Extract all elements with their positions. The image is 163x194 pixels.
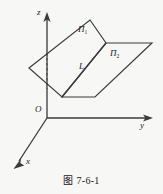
plane-pi2-label-text: Π	[110, 48, 117, 58]
figure-container: Π1 Π2 L z y x O 图 7-6-1	[0, 0, 163, 194]
plane-pi1-label: Π1	[78, 25, 87, 34]
figure-caption: 图 7-6-1	[0, 172, 163, 187]
intersection-line-label: L	[79, 62, 84, 71]
plane-pi1-shape	[29, 20, 106, 97]
x-axis-line	[19, 118, 47, 161]
plane-pi2-label: Π2	[110, 49, 119, 58]
axis-group	[14, 12, 154, 169]
plane-pi1-label-text: Π	[78, 24, 85, 34]
origin-label: O	[35, 105, 42, 114]
y-axis-label: y	[140, 121, 144, 130]
x-axis-label: x	[26, 157, 30, 166]
z-axis-label: z	[37, 8, 41, 17]
plane-pi2-shape	[62, 43, 152, 97]
plane-pi1-subscript: 1	[85, 29, 88, 35]
x-axis-arrowhead	[14, 158, 25, 169]
plane-pi2-subscript: 2	[117, 53, 120, 59]
